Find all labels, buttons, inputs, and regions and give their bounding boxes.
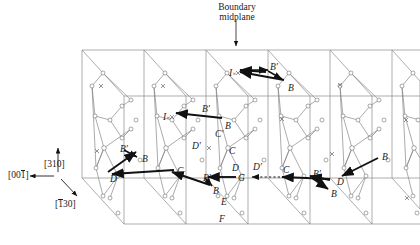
point-label-b: B xyxy=(142,155,148,165)
network-group xyxy=(340,73,379,198)
point-label-g: G xyxy=(238,174,245,184)
atomic-network xyxy=(92,73,420,198)
cross-mark xyxy=(161,84,165,88)
atom-circles xyxy=(90,71,420,215)
axis-00-1-post: ] xyxy=(25,170,28,180)
point-label-b: B xyxy=(288,84,294,94)
point-label-c: C xyxy=(283,166,289,176)
point-label-f: F xyxy=(219,215,225,225)
point-label-b-prime: B′ xyxy=(313,170,321,180)
axis-label-1bar30: [130] xyxy=(55,200,76,210)
point-label-b: B xyxy=(331,190,337,200)
burgers-arrow xyxy=(112,170,174,174)
cross-marks xyxy=(95,71,409,200)
burgers-arrow xyxy=(342,158,378,176)
point-label-b-prime: B′ xyxy=(120,145,128,155)
point-label-c: C xyxy=(229,147,235,157)
point-label-d-prime: D′ xyxy=(192,142,201,152)
axis-00-1-bar: 1 xyxy=(21,171,26,181)
point-label-b: B xyxy=(382,153,388,163)
axis-label-310: [310] xyxy=(44,160,65,170)
cross-mark xyxy=(330,152,334,156)
axis-00-1-pre: [00 xyxy=(8,170,21,180)
point-label-c: C xyxy=(177,167,183,177)
point-label-b-prime: B′ xyxy=(202,105,210,115)
point-label-i: I× xyxy=(229,69,236,79)
lattice-plane xyxy=(392,50,420,209)
caption-line-2: midplane xyxy=(199,13,275,23)
point-label-b: B xyxy=(213,187,219,197)
point-label-e: E xyxy=(221,198,227,208)
axis-130-bar: 1 xyxy=(58,200,63,210)
point-label-d: D xyxy=(337,178,344,188)
burgers-vector-arrows xyxy=(108,70,378,189)
burgers-arrow xyxy=(176,113,222,118)
cross-mark xyxy=(207,146,211,150)
axis-130-post: 30] xyxy=(63,199,76,209)
network-group xyxy=(154,73,193,198)
point-label-b-prime: B′ xyxy=(203,174,211,184)
point-label-d: D xyxy=(110,175,117,185)
cross-mark xyxy=(99,84,103,88)
cross-mark xyxy=(236,71,240,75)
point-label-d-prime: D′ xyxy=(253,163,262,173)
network-group xyxy=(278,73,317,198)
point-label-b: B xyxy=(225,122,231,132)
point-label-i: I× xyxy=(163,113,170,123)
point-label-b-prime: B′ xyxy=(270,63,278,73)
network-group xyxy=(402,73,420,196)
point-label-c-prime: C′ xyxy=(215,130,223,140)
axis-label-00-1bar: [001] xyxy=(8,171,29,181)
boundary-midplane-caption: Boundary midplane xyxy=(199,3,275,22)
figure-root: Boundary midplane [310] [001] [130] I×B′… xyxy=(0,0,420,245)
cross-mark xyxy=(405,196,409,200)
